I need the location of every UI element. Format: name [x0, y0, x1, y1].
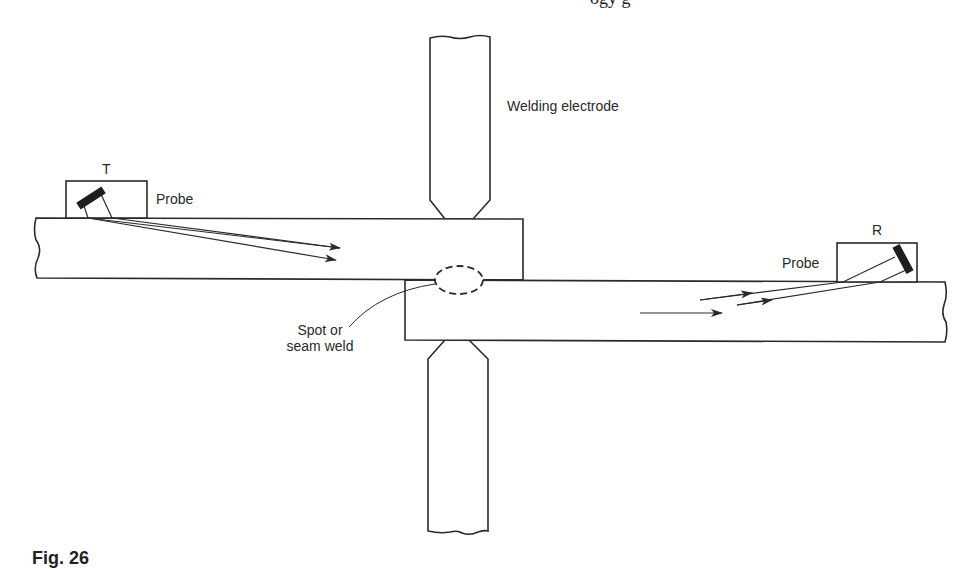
upper-electrode	[430, 36, 490, 220]
welding-electrode-label: Welding electrode	[507, 98, 619, 114]
figure-caption-text: Fig. 26	[32, 548, 89, 568]
weld-nugget	[435, 266, 483, 294]
lower-electrode	[428, 340, 488, 534]
receiver-label: R	[872, 222, 882, 238]
weld-label-line-1: Spot or	[265, 322, 375, 338]
figure-caption-fragment: Fig. 26	[32, 548, 89, 569]
probe-right-label: Probe	[782, 255, 819, 271]
transmitter-probe	[66, 181, 147, 218]
probe-left-label: Probe	[156, 191, 193, 207]
weld-label-line-2: seam weld	[265, 338, 375, 354]
transmitter-label: T	[102, 161, 111, 177]
weld-label: Spot or seam weld	[265, 322, 375, 354]
lower-sheet	[405, 280, 947, 342]
